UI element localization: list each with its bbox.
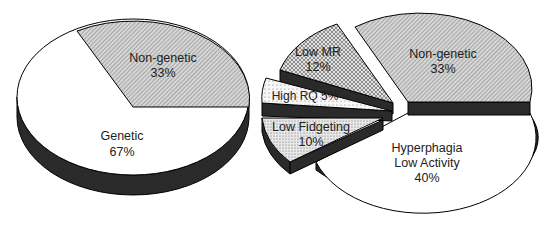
label-non-genetic-right-pct: 33%: [430, 62, 455, 76]
label-low-fidgeting-pct: 10%: [298, 135, 323, 149]
label-non-genetic: Non-genetic: [129, 51, 196, 65]
pie-charts: Non-genetic 33% Genetic 67% Non-genetic …: [0, 0, 546, 226]
label-genetic-pct: 67%: [109, 145, 134, 159]
label-low-mr: Low MR: [295, 45, 341, 59]
left-pie: Non-genetic 33% Genetic 67%: [17, 19, 250, 195]
label-non-genetic-pct: 33%: [150, 66, 175, 80]
label-non-genetic-right: Non-genetic: [409, 47, 476, 61]
label-high-rq: High RQ 5%: [272, 89, 339, 103]
label-genetic: Genetic: [100, 129, 143, 143]
label-hyperphagia-pct: 40%: [414, 171, 439, 185]
label-hyperphagia: Hyperphagia: [392, 141, 463, 155]
label-low-mr-pct: 12%: [305, 60, 330, 74]
label-low-fidgeting: Low Fidgeting: [272, 120, 350, 134]
right-pie: Non-genetic 33% Low MR 12% High RQ 5% Lo…: [262, 13, 538, 213]
label-low-activity: Low Activity: [394, 156, 460, 170]
slice-non-genetic-side: [408, 102, 530, 115]
